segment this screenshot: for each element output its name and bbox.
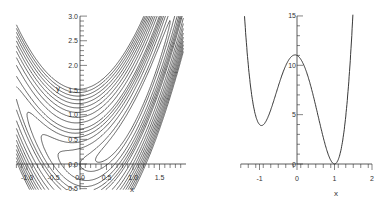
x-tick-label: 1.0	[128, 174, 138, 181]
x-tick-label: 0.5	[102, 174, 112, 181]
y-tick-label: -0.5	[66, 185, 78, 192]
x-tick-label: -0.5	[47, 174, 59, 181]
x-tick-label: 2	[370, 175, 374, 182]
contour-plot: -1.0-0.50.00.51.01.5-0.50.00.51.01.52.02…	[16, 13, 186, 193]
x-tick-label: -1	[256, 175, 262, 182]
y-tick-label: 0.0	[68, 161, 78, 168]
y-tick-label: 1.5	[68, 87, 78, 94]
line-plot: -1012051015	[241, 12, 374, 182]
y-tick-label: 3.0	[68, 13, 78, 20]
y-tick-label: 0	[292, 161, 296, 168]
x-tick-label: 0.0	[75, 174, 85, 181]
y-tick-label: 0.5	[68, 136, 78, 143]
function-curve	[245, 15, 353, 164]
y-tick-label: 2.5	[68, 37, 78, 44]
left-x-label: x	[130, 185, 134, 194]
y-tick-label: 1.0	[68, 111, 78, 118]
left-y-label: y	[56, 84, 60, 93]
x-tick-label: 0	[295, 175, 299, 182]
chart-canvas: -1.0-0.50.00.51.01.5-0.50.00.51.01.52.02…	[0, 0, 388, 210]
x-tick-label: 1.5	[155, 174, 165, 181]
contour-line	[41, 16, 179, 187]
y-tick-label: 10	[288, 62, 296, 69]
x-tick-label: -1.0	[21, 174, 33, 181]
y-tick-label: 5	[292, 111, 296, 118]
right-x-label: x	[334, 189, 338, 198]
x-tick-label: 1	[333, 175, 337, 182]
y-tick-label: 15	[288, 12, 296, 19]
y-tick-label: 2.0	[68, 62, 78, 69]
